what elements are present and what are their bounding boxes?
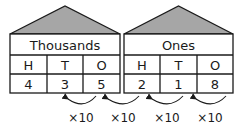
column-header: O: [96, 58, 106, 73]
ones-house: Ones H T O 2 1 8: [124, 6, 233, 93]
column-header: O: [210, 58, 220, 73]
digit: 2: [138, 77, 146, 92]
arrow-icon: [68, 96, 96, 104]
column-header: T: [60, 58, 69, 73]
thousands-house: Thousands H T O 4 3 5: [10, 6, 120, 93]
ones-title: Ones: [162, 38, 195, 53]
digit: 5: [97, 77, 105, 92]
thousands-roof: [10, 6, 120, 34]
arrow-label: ×10: [197, 111, 222, 125]
column-header: H: [137, 58, 147, 73]
arrow-icon: [196, 96, 226, 104]
arrow-label: ×10: [154, 111, 179, 125]
arrow-label: ×10: [110, 111, 135, 125]
multiply-arrows: [68, 96, 226, 104]
column-header: H: [24, 58, 34, 73]
arrow-icon: [152, 96, 183, 104]
arrow-icon: [108, 96, 139, 104]
digit: 3: [61, 77, 69, 92]
ones-roof: [124, 6, 233, 34]
digit: 8: [211, 77, 219, 92]
column-header: T: [174, 58, 183, 73]
thousands-title: Thousands: [29, 38, 101, 53]
digit: 4: [24, 77, 32, 92]
digit: 1: [174, 77, 182, 92]
place-value-chart: Thousands H T O 4 3 5 Ones H T O 2 1 8 ×…: [0, 0, 242, 127]
arrow-label: ×10: [68, 111, 93, 125]
